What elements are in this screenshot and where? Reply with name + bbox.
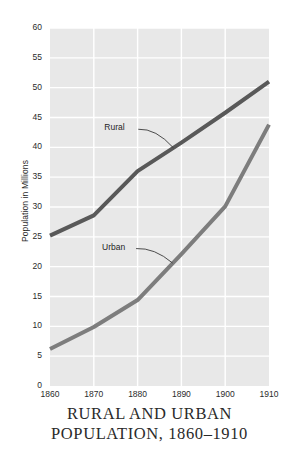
y-tick-label: 25 — [12, 231, 42, 241]
x-tick-label: 1860 — [30, 389, 70, 399]
y-tick-label: 60 — [12, 22, 42, 32]
chart-title-line-2: POPULATION, 1860–1910 — [0, 424, 299, 444]
x-tick-label: 1880 — [118, 389, 158, 399]
y-tick-label: 10 — [12, 320, 42, 330]
chart-figure: Population in Millions 05101520253035404… — [0, 0, 299, 450]
x-tick-label: 1910 — [249, 389, 289, 399]
x-tick-label: 1870 — [74, 389, 114, 399]
y-tick-label: 5 — [12, 350, 42, 360]
y-tick-label: 15 — [12, 291, 42, 301]
chart-title: RURAL AND URBAN POPULATION, 1860–1910 — [0, 404, 299, 444]
y-tick-label: 45 — [12, 112, 42, 122]
y-tick-label: 55 — [12, 52, 42, 62]
series-label-rural: Rural — [104, 122, 124, 132]
chart-svg — [0, 0, 299, 400]
y-tick-label: 35 — [12, 171, 42, 181]
series-label-urban: Urban — [102, 242, 125, 252]
chart-title-line-1: RURAL AND URBAN — [0, 404, 299, 424]
y-tick-label: 50 — [12, 82, 42, 92]
y-tick-label: 30 — [12, 201, 42, 211]
chart-plot-area: Population in Millions 05101520253035404… — [0, 0, 299, 400]
x-tick-label: 1900 — [205, 389, 245, 399]
y-tick-label: 20 — [12, 261, 42, 271]
x-tick-label: 1890 — [161, 389, 201, 399]
y-tick-label: 40 — [12, 141, 42, 151]
